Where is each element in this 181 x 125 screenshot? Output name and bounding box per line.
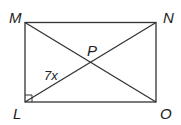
segment-label-lp: 7x: [44, 68, 58, 83]
vertex-label-o: O: [160, 105, 172, 122]
vertex-label-l: L: [13, 105, 21, 122]
vertex-label-n: N: [163, 9, 174, 26]
rectangle-diagram: M N P 7x L O: [0, 0, 181, 125]
vertex-label-m: M: [9, 9, 22, 26]
vertex-label-p: P: [87, 42, 97, 59]
